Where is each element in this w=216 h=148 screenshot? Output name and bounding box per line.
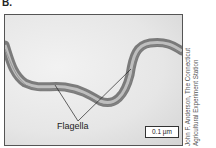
image-credit: John F. Anderson, The Connecticut Agricu… — [184, 6, 200, 146]
scale-bar: 0.1 µm — [145, 126, 179, 138]
panel-label: B. — [2, 0, 12, 8]
flagella-label: Flagella — [57, 121, 89, 131]
credit-line-2: Agricultural Experiment Station — [192, 6, 200, 146]
credit-line-1: John F. Anderson, The Connecticut — [184, 6, 192, 146]
